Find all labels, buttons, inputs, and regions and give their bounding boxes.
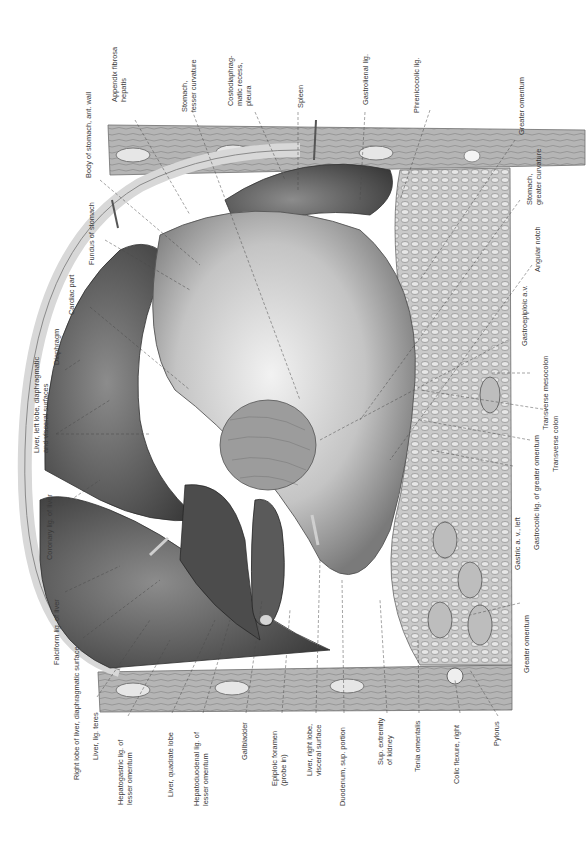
- label-transverse-mesocolon: Transverse mesocolon: [541, 356, 550, 430]
- label-coronary-lig: Coronary lig. of liver: [45, 494, 54, 560]
- label-cardiac-part: Cardiac part: [67, 275, 76, 315]
- label-spleen: Spleen: [296, 85, 305, 108]
- label-angular-notch: Angular notch: [533, 226, 542, 272]
- label-lesser-curvature: Stomach, lesser curvature: [180, 59, 198, 112]
- label-greater-curvature: Stomach, greater curvature: [525, 149, 543, 205]
- abdominal-wall-bottom: [98, 665, 512, 712]
- label-liver-lig-teres: Liver, lig. teres: [91, 712, 100, 760]
- label-duodenum: Duodenum, sup. portion: [338, 727, 347, 806]
- label-greater-omentum-top: Greater omentum: [517, 77, 526, 135]
- label-gastrocolic-lig: Gastrocolic lig. of greater omentum: [532, 435, 541, 550]
- label-fundus-stomach: Fundus of stomach: [87, 202, 96, 265]
- label-transverse-colon: Transverse colon: [551, 416, 560, 472]
- label-greater-omentum-bottom: Greater omentum: [522, 615, 531, 673]
- gallbladder: [251, 499, 284, 625]
- label-epiploic-foramen: Epiploic foramen (probe in): [270, 731, 288, 786]
- label-gastrolienal-lig: Gastrolienal lig.: [361, 54, 370, 105]
- label-gastroepiploic: Gastroepiploic a.v.: [520, 285, 529, 346]
- label-costodiaphragmatic: Costodiaphrag- matic recess, pleura: [226, 55, 253, 106]
- label-appendix-fibrosa: Appendix fibrosa hepatis: [110, 47, 128, 102]
- label-pylorus: Pylorus: [492, 721, 501, 746]
- label-gallbladder: Gallbladder: [240, 722, 249, 760]
- label-right-lobe-diaphragmatic: Right lobe of liver, diaphragmatic surfa…: [72, 646, 81, 780]
- label-hepatogastric-lig: Hepatogastric lig. of lesser omentum: [116, 740, 134, 805]
- label-gastric-av-left: Gastric a. v., left: [513, 517, 522, 570]
- label-colic-flexure-right: Colic flexure, right: [452, 725, 461, 784]
- label-liver-left-lobe: Liver, left lobe, diaphragmatic and visc…: [32, 357, 50, 453]
- label-liver-quadrate-lobe: Liver, quadrate lobe: [166, 732, 175, 797]
- label-body-stomach: Body of stomach, ant. wall: [84, 92, 93, 178]
- label-liver-right-lobe-visceral: Liver, right lobe, visceral surface: [305, 724, 323, 776]
- label-hepatoduodenal-lig: Hepatoduodenal lig. of lesser omentum: [192, 732, 210, 806]
- label-diaphragm: Diaphragm: [52, 329, 61, 365]
- label-tenia-omentalis: Tenia omentalis: [413, 721, 422, 772]
- label-phrenicocolic-lig: Phrenicocolic lig.: [412, 58, 421, 113]
- label-sup-extremity-kidney: Sup. extremity of kidney: [376, 718, 394, 765]
- label-falciform-lig: Falciform lig. of liver: [52, 599, 61, 665]
